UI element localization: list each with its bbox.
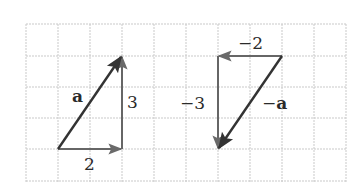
label-2: 2: [84, 156, 95, 173]
label-minus-3: −3: [180, 95, 205, 112]
label-3: 3: [127, 94, 138, 111]
vector-name-a: a: [276, 93, 287, 113]
label-minus-a: −a: [262, 95, 287, 112]
minus-sign: −: [262, 93, 276, 113]
label-minus-2: −2: [238, 35, 263, 52]
vector-diagram: [0, 0, 357, 194]
label-vector-a: a: [72, 88, 83, 105]
